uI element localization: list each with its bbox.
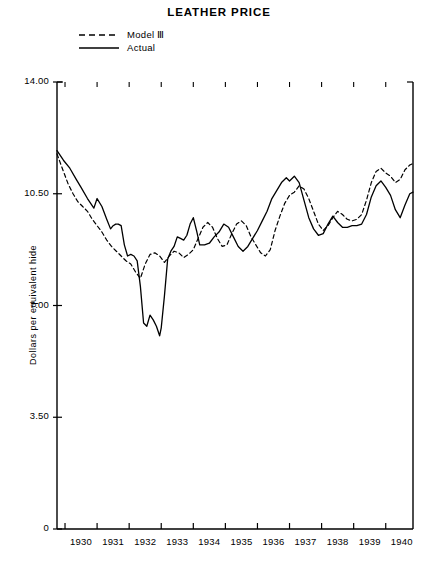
y-tick-label: 10.50 (3, 187, 49, 198)
axis-layer (53, 82, 413, 529)
y-tick-label: 14.00 (3, 75, 49, 86)
series-line-actual (57, 151, 413, 336)
y-tick-label: 3.50 (3, 410, 49, 421)
x-tick-label: 1940 (382, 536, 422, 547)
y-tick-label: 0 (3, 522, 49, 533)
series-layer (57, 151, 413, 336)
y-tick-label: 7.00 (3, 299, 49, 310)
plot-area (0, 0, 438, 561)
series-line-model-iii (57, 154, 413, 279)
chart-figure: LEATHER PRICE Model Ⅲ Actual Dollars per… (0, 0, 438, 561)
